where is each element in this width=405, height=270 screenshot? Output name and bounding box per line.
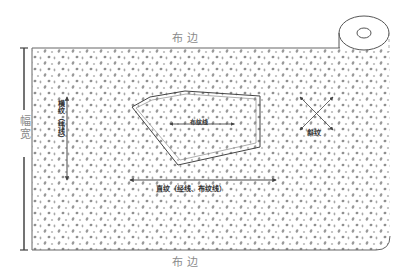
selvage-top-label: 布边	[172, 29, 202, 45]
width-label: 幅宽	[16, 115, 32, 141]
selvage-bottom-label: 布边	[172, 253, 202, 269]
piece-grainline-label: 布纹线	[190, 117, 208, 126]
crosswise-grain-label: 横纹（纬线）	[56, 100, 65, 142]
bias-label: 斜纹	[307, 127, 321, 137]
fabric-roll-icon	[339, 16, 389, 52]
width-measure-line	[20, 48, 28, 250]
fabric-sheet	[32, 48, 390, 250]
lengthwise-grain-label: 直纹（经线、布纹线）	[156, 183, 226, 193]
